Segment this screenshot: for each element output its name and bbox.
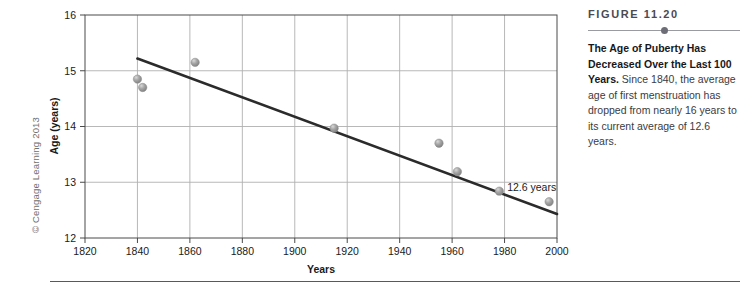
data-point	[330, 124, 338, 132]
y-tick-label: 15	[64, 65, 76, 77]
figure-divider	[588, 25, 740, 35]
y-tick-label: 16	[64, 9, 76, 21]
y-tick-label: 12	[64, 232, 76, 244]
y-axis-tick-marks	[80, 15, 85, 238]
data-point	[133, 75, 141, 83]
x-tick-label: 1920	[336, 245, 360, 257]
figure-caption-panel: FIGURE 11.20 The Age of Puberty Has Decr…	[588, 8, 740, 150]
y-axis-title: Age (years)	[48, 97, 60, 154]
x-axis-tick-marks	[85, 238, 557, 243]
chart-figure: 1213141516 18201840186018801900192019401…	[0, 0, 580, 278]
data-point	[435, 139, 443, 147]
data-point	[495, 187, 503, 195]
x-tick-label: 1980	[493, 245, 517, 257]
x-tick-label: 1880	[231, 245, 255, 257]
figure-caption-text: The Age of Puberty Has Decreased Over th…	[588, 41, 740, 150]
x-tick-label: 1940	[388, 245, 412, 257]
y-tick-label: 13	[64, 176, 76, 188]
data-point	[191, 58, 199, 66]
x-tick-label: 1820	[73, 245, 97, 257]
x-axis-title: Years	[307, 263, 335, 275]
x-tick-label: 1840	[126, 245, 150, 257]
x-tick-label: 1860	[178, 245, 202, 257]
figure-divider-dot	[661, 27, 668, 34]
data-point	[138, 83, 146, 91]
figure-number-heading: FIGURE 11.20	[588, 8, 740, 20]
x-tick-label: 1960	[440, 245, 464, 257]
chart-annotations: 12.6 years	[507, 181, 556, 193]
y-tick-label: 14	[64, 120, 76, 132]
x-tick-label: 1900	[283, 245, 307, 257]
page-divider-rule	[50, 281, 740, 282]
x-tick-label: 2000	[545, 245, 569, 257]
data-point	[545, 198, 553, 206]
x-axis-tick-labels: 1820184018601880190019201940196019802000	[73, 245, 569, 257]
data-point	[453, 167, 461, 175]
scatter-plot-svg: 1213141516 18201840186018801900192019401…	[0, 0, 580, 278]
data-annotation-label: 12.6 years	[507, 181, 556, 193]
y-axis-tick-labels: 1213141516	[64, 9, 76, 244]
